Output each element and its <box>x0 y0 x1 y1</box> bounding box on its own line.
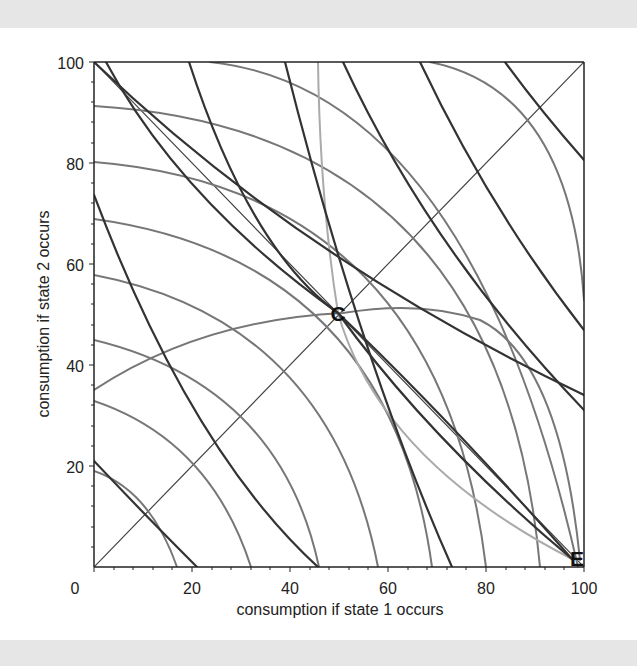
point-c-label: C <box>330 302 345 325</box>
x-tick-label: 20 <box>183 580 201 597</box>
y-tick-label: 60 <box>66 257 84 274</box>
y-tick-label: 100 <box>57 55 84 72</box>
x-axis-title: consumption if state 1 occurs <box>236 601 443 618</box>
y-tick-label: 80 <box>66 156 84 173</box>
x-tick-label: 80 <box>477 580 495 597</box>
chart: 100 80 60 40 20 0 20 40 60 80 100 consum… <box>0 0 637 666</box>
x-tick-label: 100 <box>571 580 598 597</box>
y-axis-title: consumption if state 2 occurs <box>35 210 52 417</box>
x-tick-label: 0 <box>71 580 80 597</box>
y-tick-label: 20 <box>66 459 84 476</box>
y-tick-labels: 100 80 60 40 20 <box>57 55 84 476</box>
x-tick-labels: 0 20 40 60 80 100 <box>71 580 598 597</box>
x-tick-label: 60 <box>379 580 397 597</box>
x-tick-label: 40 <box>281 580 299 597</box>
y-tick-label: 40 <box>66 358 84 375</box>
point-e-label: E <box>570 547 584 570</box>
